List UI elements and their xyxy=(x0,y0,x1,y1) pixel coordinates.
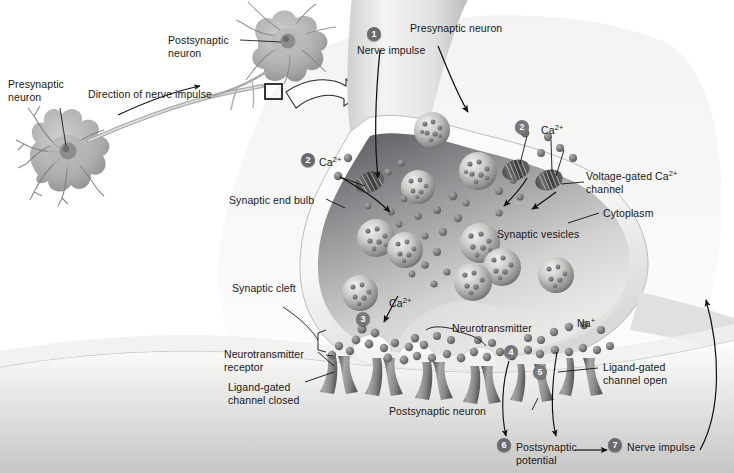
synapse-diagram: Presynaptic neuron Postsynaptic neuron D… xyxy=(0,0,734,473)
step-badge-7: 7 xyxy=(608,438,622,452)
step-badge-5: 5 xyxy=(533,365,547,379)
neurotransmitter-receptor-label: Neurotransmitterreceptor xyxy=(224,348,304,373)
impulse-direction-label: Direction of nerve impulse xyxy=(88,88,212,101)
synaptic-vesicle xyxy=(459,152,497,190)
cytoplasm-label: Cytoplasm xyxy=(603,207,654,220)
ligand-gated-open-label: Ligand-gatedchannel open xyxy=(603,361,667,386)
synaptic-vesicle xyxy=(387,232,423,268)
synaptic-vesicles-label: Synaptic vesicles xyxy=(497,228,579,241)
synaptic-vesicle xyxy=(414,112,450,148)
postsynaptic-potential-label: Postsynapticpotential xyxy=(516,441,577,466)
diagram-canvas xyxy=(0,0,734,473)
synaptic-vesicle xyxy=(538,257,574,293)
step-badge-6: 6 xyxy=(497,438,511,452)
calcium-label-right: Ca2+ xyxy=(541,124,563,137)
synaptic-vesicle xyxy=(454,263,492,301)
calcium-label-mid: Ca2+ xyxy=(389,297,411,310)
ligand-gated-closed-label: Ligand-gatedchannel closed xyxy=(228,381,299,406)
inset-presynaptic-label: Presynaptic neuron xyxy=(8,78,64,103)
step-badge-1: 1 xyxy=(367,27,381,41)
nerve-impulse-label-7: Nerve impulse xyxy=(627,441,695,454)
step-badge-2-left: 2 xyxy=(301,153,315,167)
step-badge-3: 3 xyxy=(356,312,370,326)
inset-postsynaptic-label: Postsynaptic neuron xyxy=(168,34,229,59)
step-badge-4: 4 xyxy=(504,345,518,359)
postsynaptic-neuron-label: Postsynaptic neuron xyxy=(389,405,486,418)
sodium-label: Na+ xyxy=(577,317,595,330)
presynaptic-neuron-label: Presynaptic neuron xyxy=(410,22,502,35)
synaptic-cleft-label: Synaptic cleft xyxy=(232,282,296,295)
inset-presynaptic-neuron xyxy=(16,86,262,206)
synaptic-vesicle xyxy=(342,275,378,311)
nerve-impulse-label-1: Nerve impulse xyxy=(357,44,425,57)
voltage-gated-channel-label: Voltage-gated Ca2+channel xyxy=(586,170,678,195)
neurotransmitter-label: Neurotransmitter xyxy=(452,322,532,335)
step-badge-2-right: 2 xyxy=(515,120,529,134)
calcium-label-left: Ca2+ xyxy=(319,156,341,169)
synaptic-end-bulb-label: Synaptic end bulb xyxy=(229,194,314,207)
